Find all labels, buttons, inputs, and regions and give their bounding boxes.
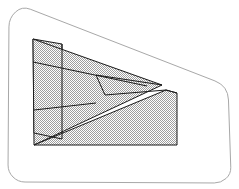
geometric-figure-svg [0,0,239,189]
figure-canvas [0,0,239,189]
